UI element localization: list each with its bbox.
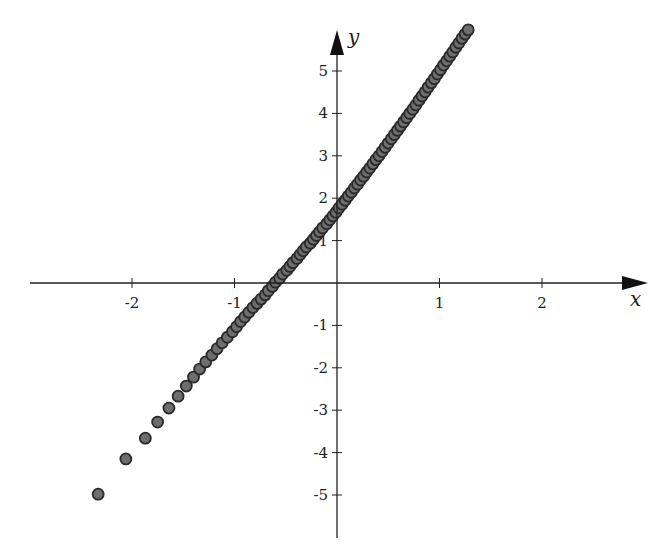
- x-tick-label: -2: [125, 294, 140, 312]
- data-points: [93, 24, 474, 499]
- y-axis-arrow-icon: [330, 30, 344, 55]
- data-point: [152, 417, 163, 428]
- y-tick-label: -3: [313, 401, 328, 419]
- x-axis-label: x: [630, 287, 641, 311]
- x-tick-label: 1: [435, 294, 445, 312]
- data-point: [93, 489, 104, 500]
- y-tick-label: -1: [313, 316, 328, 334]
- x-tick-label: -1: [227, 294, 242, 312]
- data-point: [463, 24, 474, 35]
- scatter-plot: -2-112-5-4-3-2-112345 x y: [0, 0, 671, 560]
- y-tick-label: -5: [313, 486, 328, 504]
- data-point: [140, 433, 151, 444]
- data-point: [120, 453, 131, 464]
- y-tick-label: 2: [318, 189, 328, 207]
- data-point: [173, 391, 184, 402]
- y-tick-label: 3: [318, 147, 328, 165]
- y-tick-label: 5: [318, 62, 328, 80]
- y-tick-label: 4: [318, 104, 328, 122]
- y-tick-label: -4: [313, 444, 328, 462]
- y-tick-label: -2: [313, 359, 328, 377]
- y-axis-label: y: [347, 25, 360, 49]
- x-tick-label: 2: [537, 294, 547, 312]
- data-point: [163, 403, 174, 414]
- y-tick-label: 1: [318, 232, 328, 250]
